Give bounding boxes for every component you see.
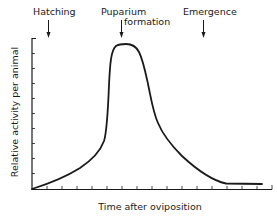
y-axis-label: Relative activity per animal	[9, 47, 20, 177]
y-axis	[32, 38, 36, 190]
annotation-puparium-label-line2: formation	[124, 16, 170, 27]
arrow-down-icon-emergence	[202, 20, 206, 38]
chart-canvas: Hatching Puparium formation Emergence	[0, 0, 277, 216]
arrow-down-icon-hatching	[47, 20, 51, 38]
x-axis-label: Time after oviposition	[97, 201, 201, 212]
activity-chart: Hatching Puparium formation Emergence	[0, 0, 277, 216]
arrow-down-icon-puparium	[120, 20, 124, 38]
x-axis-ticks	[47, 185, 272, 190]
annotation-emergence-label: Emergence	[183, 6, 237, 17]
annotation-hatching-label: Hatching	[33, 6, 76, 17]
activity-curve	[32, 44, 262, 189]
x-axis	[32, 185, 273, 190]
